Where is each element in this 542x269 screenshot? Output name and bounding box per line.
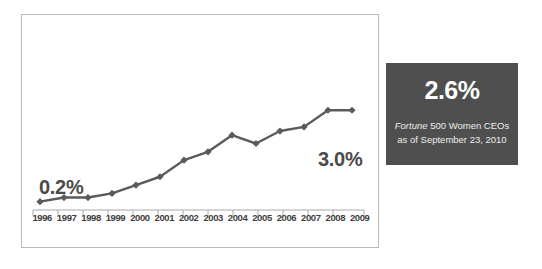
x-tick-label: 2002 xyxy=(177,212,201,223)
start-value-label: 0.2% xyxy=(39,176,83,199)
stat-callout-panel: 2.6% Fortune 500 Women CEOs as of Septem… xyxy=(386,63,518,165)
x-tick-label: 1997 xyxy=(54,212,78,223)
stat-caption-rest: 500 Women CEOs xyxy=(428,120,510,131)
chart-panel: 0.2% 3.0% 199619971998199920002001200220… xyxy=(21,14,379,248)
x-tick-label: 2009 xyxy=(347,212,371,223)
series-line xyxy=(40,110,352,201)
x-tick-label: 2003 xyxy=(201,212,225,223)
data-series-women-ceos xyxy=(36,107,355,206)
data-point-marker xyxy=(348,107,355,114)
x-tick-label: 2007 xyxy=(299,212,323,223)
x-tick-label: 1998 xyxy=(79,212,103,223)
x-tick-label: 2000 xyxy=(128,212,152,223)
stat-caption-date: as of September 23, 2010 xyxy=(397,133,506,147)
x-axis-labels: 1996199719981999200020012002200320042005… xyxy=(30,212,372,223)
data-point-marker xyxy=(108,190,115,197)
stat-caption-source: Fortune xyxy=(395,120,428,131)
x-tick-label: 2005 xyxy=(250,212,274,223)
data-point-marker xyxy=(84,194,91,201)
stat-value: 2.6% xyxy=(425,78,480,103)
x-tick-label: 2001 xyxy=(152,212,176,223)
data-point-marker xyxy=(36,198,43,205)
x-tick-label: 2008 xyxy=(323,212,347,223)
x-tick-label: 1999 xyxy=(103,212,127,223)
x-tick-label: 2004 xyxy=(225,212,249,223)
stat-caption-line1: Fortune 500 Women CEOs xyxy=(395,119,509,133)
data-point-marker xyxy=(132,181,139,188)
x-tick-label: 2006 xyxy=(274,212,298,223)
end-value-label: 3.0% xyxy=(318,148,362,171)
x-tick-label: 1996 xyxy=(30,212,54,223)
